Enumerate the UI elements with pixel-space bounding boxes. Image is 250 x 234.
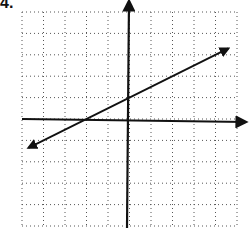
x-axis xyxy=(22,119,246,122)
y-axis xyxy=(127,1,129,228)
coordinate-plane xyxy=(0,0,250,234)
